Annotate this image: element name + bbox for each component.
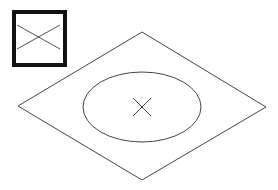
isometric-plane <box>18 32 266 180</box>
inset-box-border <box>14 12 65 65</box>
inset-cross-box-icon <box>14 12 65 65</box>
diagram-canvas <box>0 0 278 190</box>
center-cross-icon <box>133 98 151 116</box>
